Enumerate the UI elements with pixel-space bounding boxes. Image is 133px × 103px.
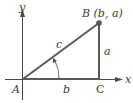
side-b-label: b bbox=[63, 83, 70, 96]
x-axis-arrow-icon bbox=[115, 77, 123, 82]
side-c-label: c bbox=[56, 38, 62, 51]
point-b bbox=[96, 20, 102, 26]
x-axis-label: x bbox=[125, 73, 132, 86]
hypotenuse-c bbox=[23, 23, 99, 79]
vertex-b-label: B (b, a) bbox=[81, 7, 123, 20]
triangle-diagram: y x B (b, a) c a A b C bbox=[0, 0, 133, 103]
vertex-c-label: C bbox=[96, 83, 104, 96]
angle-arc bbox=[55, 61, 59, 79]
side-a-label: a bbox=[104, 45, 111, 58]
vertex-a-label: A bbox=[11, 83, 20, 96]
y-axis-label: y bbox=[18, 1, 26, 14]
angle-arrow-icon bbox=[53, 58, 57, 63]
